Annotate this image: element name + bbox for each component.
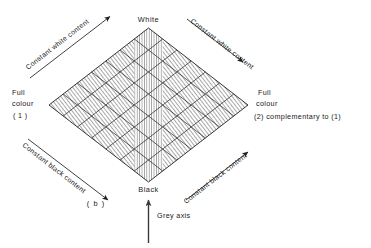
hatched-cells (49, 28, 248, 182)
vertex-label-right-full-colour: Full colour (2) complementary to (1) (254, 88, 341, 121)
grey-axis-annotation: Grey axis (149, 200, 191, 243)
edge-arrow-bottom-right (186, 152, 248, 200)
figure-caption: ( b ) (87, 199, 106, 208)
figure-container: White Black Full colour ( 1 ) Full colou… (0, 0, 371, 248)
cell-field-vertical-grey-axis (134, 28, 162, 182)
vertex-label-white: White (138, 15, 159, 24)
edge-label-bottom-left: Constant black content (21, 141, 87, 194)
grey-axis-label: Grey axis (157, 211, 191, 220)
edge-label-top-left: Constant white content (24, 18, 90, 71)
edge-arrow-top-right (187, 19, 243, 62)
edge-label-top-right: Constant white content (189, 17, 255, 70)
left-label-line3: ( 1 ) (13, 111, 28, 120)
vertex-label-black: Black (138, 185, 159, 194)
rhombus-body (49, 28, 248, 182)
right-label-line1: Full (258, 88, 271, 97)
right-label-line3: (2) complementary to (1) (254, 112, 341, 121)
edge-annotation-bottom-left: Constant black content (21, 139, 108, 200)
right-label-line2: colour (256, 99, 278, 108)
edge-annotation-top-right: Constant white content (187, 17, 255, 70)
edge-arrow-bottom-left (28, 139, 108, 200)
colour-solid-diagram: White Black Full colour ( 1 ) Full colou… (0, 0, 371, 248)
edge-annotation-bottom-right: Constant black content (182, 152, 248, 205)
left-label-line2: colour (12, 99, 34, 108)
left-label-line1: Full (12, 88, 25, 97)
vertex-label-left-full-colour: Full colour ( 1 ) (12, 88, 34, 120)
